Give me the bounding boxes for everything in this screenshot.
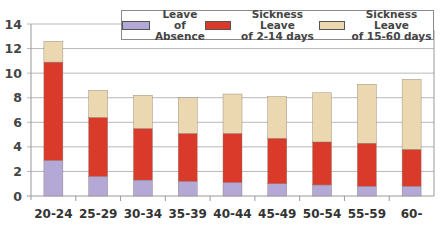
legend-label: Sickness Leaveof 15-60 days xyxy=(350,9,433,42)
bar-segment xyxy=(133,95,152,128)
bar-segment xyxy=(402,79,421,149)
bar-segment xyxy=(357,84,376,143)
x-tick-label: 45-49 xyxy=(258,207,296,221)
bar-segment xyxy=(313,142,332,185)
legend-item-leave-of-absence: Leave ofAbsence xyxy=(122,9,205,42)
legend-swatch xyxy=(319,21,345,30)
bar-segment xyxy=(133,128,152,180)
bar-segment xyxy=(223,94,242,133)
bar-segment xyxy=(357,143,376,186)
y-tick-label: 2 xyxy=(13,164,22,179)
x-tick-label: 20-24 xyxy=(34,207,72,221)
bar-segment xyxy=(313,185,332,196)
y-tick-label: 10 xyxy=(5,66,23,81)
bar-segment xyxy=(44,62,63,160)
bar-segment xyxy=(223,182,242,196)
legend-label: Leave ofAbsence xyxy=(155,9,205,42)
bar-segment xyxy=(268,138,287,183)
x-tick-label: 55-59 xyxy=(348,207,386,221)
bar-segment xyxy=(223,133,242,182)
legend-swatch xyxy=(205,21,231,30)
y-tick-label: 12 xyxy=(5,41,22,56)
bar-segment xyxy=(402,149,421,186)
bar-segment xyxy=(178,181,197,196)
bar-segment xyxy=(44,41,63,62)
bar-segment xyxy=(268,96,287,138)
bar-segment xyxy=(89,176,108,196)
x-tick-label: 50-54 xyxy=(303,207,341,221)
bar-segment xyxy=(178,133,197,181)
y-tick-label: 6 xyxy=(13,115,22,130)
chart-legend: Leave ofAbsence Sickness Leaveof 2-14 da… xyxy=(121,10,434,40)
bar-segment xyxy=(357,186,376,196)
legend-label: Sickness Leaveof 2-14 days xyxy=(236,9,319,42)
bar-segment xyxy=(402,186,421,196)
x-tick-label: 40-44 xyxy=(213,207,251,221)
bar-segment xyxy=(89,90,108,117)
legend-swatch xyxy=(122,21,150,30)
bar-segment xyxy=(133,180,152,196)
x-tick-label: 25-29 xyxy=(79,207,117,221)
bar-segment xyxy=(313,93,332,142)
bar-segment xyxy=(44,160,63,196)
y-tick-label: 14 xyxy=(5,17,23,32)
x-tick-label: 30-34 xyxy=(124,207,162,221)
x-tick-label: 60- xyxy=(401,207,423,221)
bar-segment xyxy=(89,117,108,176)
y-tick-label: 0 xyxy=(13,189,22,204)
bar-segment xyxy=(178,98,197,134)
bar-segment xyxy=(268,184,287,196)
legend-item-sickness-2-14: Sickness Leaveof 2-14 days xyxy=(205,9,319,42)
x-tick-label: 35-39 xyxy=(169,207,207,221)
y-tick-label: 8 xyxy=(13,90,22,105)
y-tick-label: 4 xyxy=(13,139,22,154)
legend-item-sickness-15-60: Sickness Leaveof 15-60 days xyxy=(319,9,433,42)
